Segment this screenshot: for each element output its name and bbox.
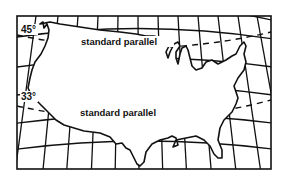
label-standard-parallel-south: standard parallel xyxy=(79,107,173,118)
label-standard-parallel-north: standard parallel xyxy=(80,36,174,47)
meridian-line xyxy=(257,16,287,180)
svg-text:33°: 33° xyxy=(21,91,36,102)
svg-text:standard parallel: standard parallel xyxy=(81,36,157,47)
meridian-line xyxy=(238,16,262,180)
parallel-line xyxy=(10,3,280,22)
svg-text:standard parallel: standard parallel xyxy=(80,107,156,118)
label-45: 45° xyxy=(20,24,38,35)
svg-text:45°: 45° xyxy=(21,24,36,35)
conic-projection-map: 45° 33° standard parallel standard paral… xyxy=(0,0,287,181)
label-33: 33° xyxy=(20,91,38,102)
